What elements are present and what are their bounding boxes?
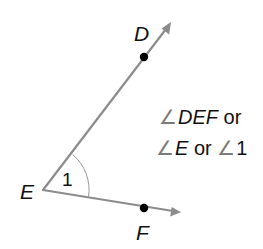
label-f: F (136, 221, 150, 244)
angle-symbol-icon: ∠ (159, 106, 177, 128)
angle-symbol-icon: ∠ (156, 137, 174, 159)
ray-ef (43, 190, 173, 211)
annotation-line-1: ∠DEF or (159, 106, 242, 128)
annotation-line-2: ∠E or ∠1 (156, 137, 247, 159)
angle-diagram: D E F 1 ∠DEF or ∠E or ∠1 (0, 0, 263, 249)
angle-arc (73, 155, 89, 198)
point-f (140, 204, 148, 212)
ray-ed (43, 29, 166, 190)
label-e: E (20, 180, 35, 203)
annotation-or-2: or (188, 137, 217, 159)
angle-name-def: DEF (178, 106, 220, 128)
angle-name-1: 1 (236, 137, 247, 159)
point-d (140, 53, 148, 61)
arrow-f-icon (170, 207, 181, 217)
annotation-or-1: or (218, 106, 242, 128)
label-angle-1: 1 (62, 169, 73, 190)
angle-name-e: E (175, 137, 189, 159)
angle-symbol-icon: ∠ (217, 137, 235, 159)
label-d: D (134, 22, 149, 45)
